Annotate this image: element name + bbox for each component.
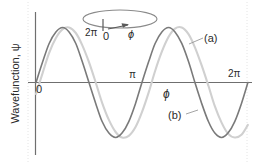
x-tick-label-pi: π xyxy=(129,70,136,80)
ring-label-phi: ϕ xyxy=(128,29,134,40)
ring-label-zero: 0 xyxy=(103,31,109,42)
wavefunction-figure: Wavefunction, ψ 0 π 2π ϕ 2π 0 ϕ (a) (b) xyxy=(0,0,260,164)
ring-ellipse xyxy=(83,10,157,28)
ring-label-two-pi: 2π xyxy=(85,28,97,38)
x-tick-label-two-pi: 2π xyxy=(228,69,240,79)
x-axis-title: ϕ xyxy=(163,88,170,100)
curve-b-label: (b) xyxy=(168,110,181,121)
plot-canvas xyxy=(0,0,260,164)
curve-a-label: (a) xyxy=(204,33,217,44)
x-tick-label-origin: 0 xyxy=(36,84,42,95)
y-axis-title: Wavefunction, ψ xyxy=(10,24,21,144)
curve-b-leader-line xyxy=(186,110,198,114)
